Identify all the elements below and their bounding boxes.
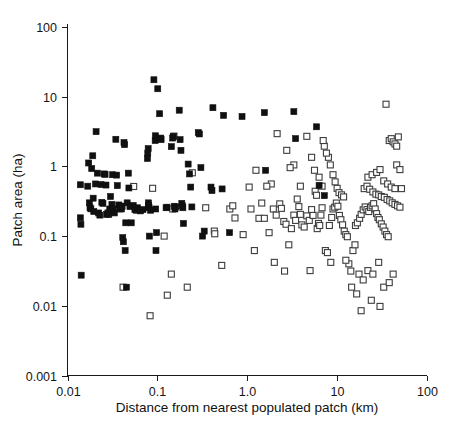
data-point [113,136,119,142]
data-point [230,203,236,209]
data-point [253,167,259,173]
data-point [251,248,257,254]
data-point [311,167,317,173]
data-point [273,212,279,218]
data-point [263,167,269,173]
data-point [304,133,310,139]
data-point [343,257,349,263]
x-axis-title: Distance from nearest populated patch (k… [116,400,379,415]
data-point [232,215,238,221]
data-point [316,174,322,180]
data-point [349,284,355,290]
unoccupied-patch-points [120,101,404,319]
y-tick-label: 100 [36,21,57,35]
data-point [168,271,174,277]
data-point [291,109,297,115]
data-point [94,170,100,176]
data-point [341,194,347,200]
data-point [77,215,83,221]
data-point [321,193,327,199]
data-point [168,144,174,150]
data-point [128,220,134,226]
data-point [282,268,288,274]
data-point [173,204,179,210]
data-point [187,171,193,177]
x-axis-ticks: 0.010.11.010100 [56,376,438,400]
data-point [286,242,292,248]
occupied-patch-points [77,77,327,290]
data-point [146,233,152,239]
data-point [344,234,350,240]
data-point [370,271,376,277]
data-point [78,221,84,227]
data-point [246,184,252,190]
data-point [397,204,403,210]
data-point [93,129,99,135]
data-point [294,196,300,202]
data-point [360,277,366,283]
data-point [203,205,209,211]
data-point [140,207,146,213]
data-point [93,181,99,187]
data-point [309,207,315,213]
data-point [108,194,114,200]
data-point [90,153,96,159]
data-point [319,205,325,211]
data-point [320,138,326,144]
data-point [97,212,103,218]
data-point [77,182,83,188]
data-point [185,161,191,167]
data-point [196,131,202,137]
data-point [397,167,403,173]
data-point [348,268,354,274]
data-point [145,146,151,152]
data-point [385,234,391,240]
data-point [239,113,245,119]
data-point [123,220,129,226]
data-point [340,222,346,228]
data-point [147,313,153,319]
data-point [219,262,225,268]
data-point [392,186,398,192]
data-point [316,182,322,188]
data-point [284,147,290,153]
y-tick-label: 0.1 [40,230,57,244]
data-point [335,203,341,209]
data-point [386,280,392,286]
data-point [209,188,215,194]
data-point [264,183,270,189]
data-point [240,232,246,238]
data-point [184,284,190,290]
data-point [326,222,332,228]
data-point [288,226,294,232]
y-tick-label: 10 [43,91,57,105]
data-point [293,217,299,223]
data-point [297,211,303,217]
data-point [157,111,163,117]
data-point [188,184,194,190]
y-tick-label: 0.01 [33,300,57,314]
data-point [324,250,330,256]
data-point [114,183,120,189]
scatter-plot-figure: 1001010.10.010.001 0.010.11.010100 Dista… [0,0,460,435]
x-tick-label: 1.0 [239,385,256,399]
data-point [164,204,170,210]
data-point [330,172,336,178]
x-tick-label: 100 [417,385,438,399]
data-point [274,131,280,137]
data-point [261,110,267,116]
data-point [212,231,218,237]
y-tick-label: 0.001 [26,370,57,384]
data-point [123,284,129,290]
data-point [151,77,157,83]
data-point [356,271,362,277]
x-tick-label: 0.01 [56,385,80,399]
data-point [301,224,307,230]
data-point [219,186,225,192]
plot-canvas: 1001010.10.010.001 0.010.11.010100 Dista… [0,0,460,435]
data-point [126,185,132,191]
data-point [261,215,267,221]
data-point [317,222,323,228]
data-point [310,212,316,218]
data-point [297,183,303,189]
